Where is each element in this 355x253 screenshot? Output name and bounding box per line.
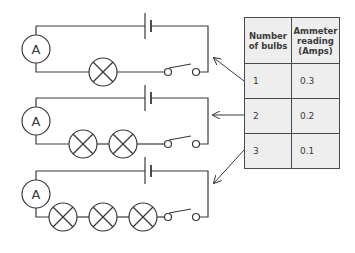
ammeter-label: A <box>32 187 41 202</box>
bulb-icon <box>129 203 157 231</box>
cell-bulbs: 3 <box>245 134 292 169</box>
switch-icon <box>165 64 200 76</box>
bulb-icon <box>89 203 117 231</box>
ammeter-readings-table: Number of bulbs Ammeter reading (Amps) 1… <box>244 17 340 169</box>
table-header-row: Number of bulbs Ammeter reading (Amps) <box>245 18 340 64</box>
arrows <box>213 58 244 183</box>
switch-icon <box>165 136 200 148</box>
circuit-3 <box>22 157 208 231</box>
bulb-icon <box>49 203 77 231</box>
header-ammeter-reading: Ammeter reading (Amps) <box>292 18 340 64</box>
table-row: 1 0.3 <box>245 64 340 99</box>
cell-bulbs: 2 <box>245 99 292 134</box>
ammeter-label: A <box>32 42 41 57</box>
cell-bulbs: 1 <box>245 64 292 99</box>
bulb-icon <box>69 130 97 158</box>
cell-reading: 0.2 <box>292 99 340 134</box>
table-row: 3 0.1 <box>245 134 340 169</box>
bulb-icon <box>109 130 137 158</box>
cell-icon <box>145 85 151 111</box>
cell-icon <box>145 157 151 184</box>
arrow-icon <box>214 150 244 183</box>
cell-reading: 0.1 <box>292 134 340 169</box>
ammeter-label: A <box>32 114 41 129</box>
cell-icon <box>145 13 151 39</box>
circuit-1 <box>22 13 208 86</box>
cell-reading: 0.3 <box>292 64 340 99</box>
table-row: 2 0.2 <box>245 99 340 134</box>
bulb-icon <box>89 58 117 86</box>
header-number-of-bulbs: Number of bulbs <box>245 18 292 64</box>
arrow-icon <box>214 58 244 81</box>
switch-icon <box>165 209 200 221</box>
circuit-2 <box>22 85 208 158</box>
